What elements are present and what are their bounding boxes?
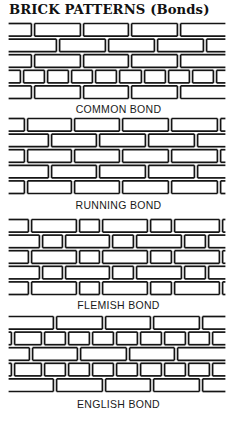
- diagram-title: BRICK PATTERNS (Bonds): [9, 2, 209, 17]
- flemish-bond-brick-pattern: [0, 218, 237, 300]
- running-bond-brick-pattern: [0, 117, 237, 199]
- common-bond-brick-pattern: [0, 22, 237, 104]
- english-bond-label: ENGLISH BOND: [0, 398, 237, 410]
- flemish-bond-label: FLEMISH BOND: [0, 299, 237, 311]
- common-bond-label: COMMON BOND: [0, 103, 237, 115]
- english-bond-brick-pattern: [0, 315, 237, 397]
- running-bond-label: RUNNING BOND: [0, 199, 237, 211]
